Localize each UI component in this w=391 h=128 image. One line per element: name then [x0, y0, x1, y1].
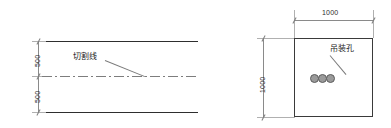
slab-top-edge: [46, 41, 198, 42]
right-section-view: 1000 1000 吊装孔: [200, 0, 391, 128]
extension-line-left-vertical: [294, 10, 295, 38]
technical-drawing-canvas: 500 500 切割线 1000 1000: [0, 0, 391, 128]
dimension-label-upper-500: 500: [34, 55, 42, 67]
dimension-label-lower-500: 500: [34, 91, 42, 103]
annotation-leader-cutting-line: [105, 60, 145, 77]
lifting-hole: [326, 74, 335, 83]
dimension-line-horizontal-top: [294, 20, 373, 21]
dimension-label-width-1000: 1000: [322, 9, 338, 17]
dimension-label-height-1000: 1000: [259, 77, 267, 93]
left-elevation-view: 500 500 切割线: [0, 0, 200, 128]
extension-line-right-vertical: [373, 10, 374, 38]
annotation-label-lifting-hole: 吊装孔: [330, 44, 354, 53]
annotation-label-cutting-line: 切割线: [73, 52, 97, 61]
slab-bottom-edge: [46, 112, 198, 113]
cutting-center-line: [42, 76, 198, 77]
